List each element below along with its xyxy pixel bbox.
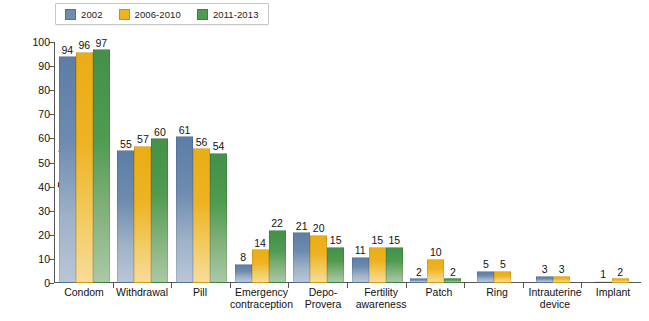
bar[interactable]: 22 <box>269 230 286 283</box>
y-axis-tick-label: 10 <box>38 253 50 265</box>
bar-group-bars: 55 <box>477 42 511 283</box>
x-axis-category-label: Fertilityawareness <box>352 286 410 310</box>
bar[interactable]: 94 <box>59 56 76 283</box>
bar[interactable]: 3 <box>553 276 570 283</box>
bar-group-bars: 12 <box>595 42 629 283</box>
bar[interactable]: 3 <box>536 276 553 283</box>
bar[interactable]: 14 <box>252 249 269 283</box>
bar-value-label: 15 <box>330 235 342 246</box>
bar-group-bars: 81422 <box>235 42 286 283</box>
bar-value-label: 22 <box>271 218 283 229</box>
x-axis-category-label-line: contraception <box>230 298 293 310</box>
y-axis-tick-label: 30 <box>38 205 50 217</box>
bar-group: 949697 <box>55 42 114 283</box>
x-axis-category-label: Emergencycontraception <box>229 286 294 310</box>
x-axis-category-label-line: Depo- <box>295 286 351 298</box>
legend-item-2006-2010[interactable]: 2006-2010 <box>119 9 181 20</box>
bar[interactable]: 97 <box>93 49 110 283</box>
bar-group-bars: 615654 <box>176 42 227 283</box>
legend-swatch-icon <box>197 9 208 20</box>
bar[interactable]: 15 <box>369 247 386 283</box>
bar-value-label: 3 <box>542 264 548 275</box>
y-axis-tick-label: 100 <box>32 36 50 48</box>
bar[interactable]: 21 <box>293 232 310 283</box>
bar[interactable]: 20 <box>310 235 327 283</box>
bar-value-label: 5 <box>483 259 489 270</box>
bar[interactable]: 15 <box>327 247 344 283</box>
plot-area: Percent 0102030405060708090100 949697555… <box>54 42 641 283</box>
bar-group-bars: 2102 <box>410 42 461 283</box>
legend-item-2002[interactable]: 2002 <box>65 9 103 20</box>
y-axis-tick-label: 90 <box>38 60 50 72</box>
bar-group: 12 <box>582 42 641 283</box>
bar-value-label: 2 <box>617 267 623 278</box>
bar-group: 111515 <box>348 42 407 283</box>
bar-group-bars: 111515 <box>352 42 403 283</box>
x-axis-labels: CondomWithdrawalPillEmergencycontracepti… <box>55 286 642 310</box>
x-axis-category-label: Withdrawal <box>113 286 171 310</box>
x-axis-category-label-line: Emergency <box>230 286 293 298</box>
legend-item-label: 2011-2013 <box>213 9 259 20</box>
y-axis-tick-label: 20 <box>38 229 50 241</box>
x-axis-category-label-line: Intrauterine <box>527 286 583 298</box>
bar[interactable]: 60 <box>151 138 168 283</box>
bar-group: 555760 <box>114 42 173 283</box>
bar[interactable]: 55 <box>117 150 134 283</box>
x-axis-category-label: Ring <box>468 286 526 310</box>
x-axis-category-label-line: Patch <box>411 286 467 298</box>
bar-value-label: 1 <box>600 269 606 280</box>
bar[interactable]: 1 <box>595 281 612 283</box>
x-axis-category-label-line: Condom <box>56 286 112 298</box>
bar-group: 33 <box>524 42 583 283</box>
x-axis-category-label-line: Implant <box>585 286 641 298</box>
bar-groups: 9496975557606156548142221201511151521025… <box>55 42 641 283</box>
chart-legend: 20022006-20102011-2013 <box>55 3 269 25</box>
bar-group-bars: 555760 <box>117 42 168 283</box>
bar-group: 212015 <box>289 42 348 283</box>
legend-item-2011-2013[interactable]: 2011-2013 <box>197 9 259 20</box>
bar-group: 81422 <box>231 42 290 283</box>
legend-item-label: 2006-2010 <box>135 9 181 20</box>
bar[interactable]: 96 <box>76 52 93 283</box>
bar-group-bars: 212015 <box>293 42 344 283</box>
bar-value-label: 96 <box>78 40 90 51</box>
bar-value-label: 11 <box>355 245 366 256</box>
bar[interactable]: 15 <box>386 247 403 283</box>
y-axis-tick-label: 80 <box>38 84 50 96</box>
bar-value-label: 2 <box>416 267 422 278</box>
bar[interactable]: 54 <box>210 153 227 283</box>
x-axis-category-label-line: Provera <box>295 298 351 310</box>
legend-swatch-icon <box>65 9 76 20</box>
bar[interactable]: 2 <box>612 278 629 283</box>
y-axis-tick-label: 40 <box>38 181 50 193</box>
x-axis-category-label: Pill <box>171 286 229 310</box>
bar-value-label: 56 <box>196 137 208 148</box>
bar-group: 615654 <box>172 42 231 283</box>
legend-swatch-icon <box>119 9 130 20</box>
x-axis-category-label-line: Withdrawal <box>114 286 170 298</box>
x-axis-category-label-line: Fertility <box>353 286 409 298</box>
bar-value-label: 54 <box>213 141 225 152</box>
bar[interactable]: 11 <box>352 257 369 284</box>
y-axis-tick-label: 50 <box>38 157 50 169</box>
bar-value-label: 20 <box>313 223 325 234</box>
bar-value-label: 5 <box>500 259 506 270</box>
bar[interactable]: 57 <box>134 146 151 283</box>
x-axis-category-label: Condom <box>55 286 113 310</box>
bar-value-label: 10 <box>430 247 442 258</box>
bar[interactable]: 10 <box>427 259 444 283</box>
x-axis-category-label: Depo-Provera <box>294 286 352 310</box>
bar[interactable]: 5 <box>494 271 511 283</box>
bar[interactable]: 2 <box>444 278 461 283</box>
bar[interactable]: 2 <box>410 278 427 283</box>
bar[interactable]: 5 <box>477 271 494 283</box>
bar-value-label: 94 <box>61 45 73 56</box>
bar-value-label: 3 <box>559 264 565 275</box>
bar-value-label: 14 <box>254 238 266 249</box>
legend-item-label: 2002 <box>81 9 103 20</box>
bar[interactable]: 8 <box>235 264 252 283</box>
bar-value-label: 60 <box>154 127 166 138</box>
bar[interactable]: 56 <box>193 148 210 283</box>
bar[interactable]: 61 <box>176 136 193 283</box>
bar-value-label: 2 <box>450 267 456 278</box>
